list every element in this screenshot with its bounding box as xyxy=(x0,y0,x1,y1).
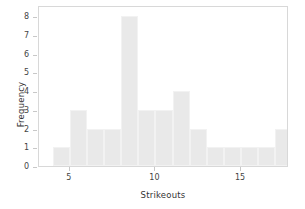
histogram-bar xyxy=(173,91,190,166)
histogram-bar xyxy=(258,147,275,166)
y-tick-label: 3 xyxy=(5,107,29,115)
plot-frame xyxy=(38,6,288,167)
y-tick-label: 6 xyxy=(5,51,29,59)
histogram-bar xyxy=(70,110,87,166)
y-tick-mark xyxy=(33,111,37,112)
histogram-bar xyxy=(241,147,258,166)
y-tick-mark xyxy=(33,148,37,149)
y-tick-mark xyxy=(33,167,37,168)
y-tick-label: 0 xyxy=(5,163,29,171)
histogram-bar xyxy=(104,129,121,166)
x-tick-label: 15 xyxy=(225,174,255,182)
histogram-figure: Frequency 012345678 51015 Strikeouts xyxy=(0,0,305,209)
y-tick-mark xyxy=(33,92,37,93)
y-tick-label: 5 xyxy=(5,69,29,77)
histogram-bar xyxy=(53,147,70,166)
y-tick-label: 1 xyxy=(5,144,29,152)
histogram-bar xyxy=(87,129,104,166)
y-tick-mark xyxy=(33,17,37,18)
histogram-bar xyxy=(121,16,138,166)
y-tick-label: 2 xyxy=(5,126,29,134)
x-tick-mark xyxy=(240,167,241,171)
histogram-bar xyxy=(190,129,207,166)
x-tick-mark xyxy=(154,167,155,171)
x-tick-label: 10 xyxy=(139,174,169,182)
y-tick-label: 7 xyxy=(5,32,29,40)
y-tick-label: 4 xyxy=(5,88,29,96)
x-tick-mark xyxy=(69,167,70,171)
y-tick-mark xyxy=(33,55,37,56)
histogram-bar xyxy=(138,110,155,166)
plot-area xyxy=(39,7,287,166)
y-tick-mark xyxy=(33,36,37,37)
x-axis-label: Strikeouts xyxy=(38,190,288,200)
histogram-bar xyxy=(207,147,224,166)
y-tick-label: 8 xyxy=(5,13,29,21)
histogram-bar xyxy=(155,110,172,166)
histogram-bar xyxy=(275,129,287,166)
x-tick-label: 5 xyxy=(54,174,84,182)
histogram-bar xyxy=(224,147,241,166)
y-tick-mark xyxy=(33,73,37,74)
y-tick-mark xyxy=(33,130,37,131)
